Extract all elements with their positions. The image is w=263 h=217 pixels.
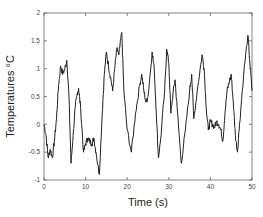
y-tick-label: 0.5 [31,93,40,100]
y-tick-label: 0 [36,121,40,128]
y-tick-label: 1 [36,65,40,72]
x-tick-label: 50 [248,183,256,190]
temperature-line [44,32,252,174]
x-axis-title: Time (s) [128,196,168,208]
y-tick-label: 2 [36,9,40,16]
x-tick-label: 40 [207,183,215,190]
plot-area: 01020304050 -1-0.500.511.52 [29,9,256,190]
temperature-chart: 01020304050 -1-0.500.511.52 Time (s) Tem… [0,0,263,217]
x-tick-label: 10 [82,183,90,190]
y-axis-title: Temperatures °C [4,55,16,138]
y-tick-label: 1.5 [31,37,40,44]
x-axis-ticks: 01020304050 [42,13,256,190]
x-tick-label: 0 [42,183,46,190]
y-tick-label: -1 [34,176,40,183]
y-axis-ticks: -1-0.500.511.52 [29,9,252,183]
y-tick-label: -0.5 [29,148,41,155]
x-tick-label: 30 [165,183,173,190]
x-tick-label: 20 [124,183,132,190]
